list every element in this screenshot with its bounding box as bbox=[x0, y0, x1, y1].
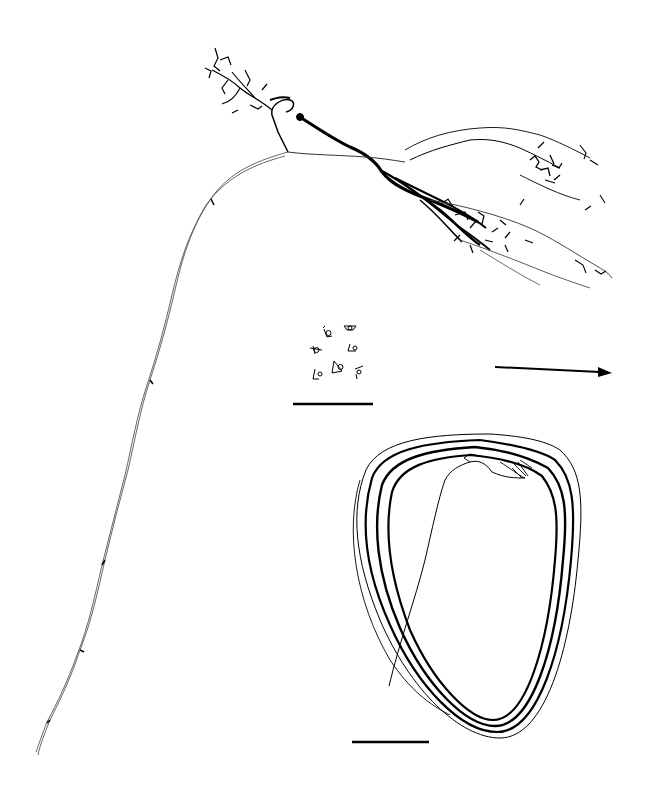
neuron-figure bbox=[0, 0, 647, 794]
soma-dot bbox=[297, 114, 304, 121]
